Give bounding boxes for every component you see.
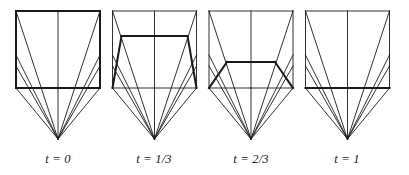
skirt-left: [209, 88, 251, 139]
fan-line-right-2: [348, 66, 390, 139]
bold-trapezoid-left: [209, 62, 227, 88]
bold-trapezoid-right: [188, 36, 197, 88]
fan-line-right-0: [155, 11, 197, 139]
bold-trapezoid-right: [275, 62, 293, 88]
skirt-right: [155, 88, 197, 139]
fan-line-right-2: [58, 66, 100, 139]
skirt-left: [16, 88, 58, 139]
fan-line-left-1: [306, 55, 348, 139]
skirt-right: [58, 88, 100, 139]
panel-label-t1: t = 1: [289, 152, 405, 167]
fan-line-left-0: [16, 11, 58, 139]
fan-line-right-2: [155, 66, 197, 139]
fan-line-left-0: [306, 11, 348, 139]
fan-line-left-0: [209, 11, 251, 139]
skirt-right: [348, 88, 390, 139]
skirt-right: [251, 88, 293, 139]
bold-trapezoid-left: [113, 36, 122, 88]
fan-line-left-0: [113, 11, 155, 139]
skirt-left: [113, 88, 155, 139]
fan-line-right-1: [251, 55, 293, 139]
fan-line-left-2: [16, 66, 58, 139]
fan-line-left-1: [113, 55, 155, 139]
fan-line-left-2: [113, 66, 155, 139]
fan-line-right-1: [155, 55, 197, 139]
fan-line-right-0: [58, 11, 100, 139]
fan-line-right-1: [348, 55, 390, 139]
figure-container: t = 0 t = 1/3 t = 2/3 t = 1: [0, 0, 409, 175]
fan-line-right-2: [251, 66, 293, 139]
fan-line-left-2: [209, 66, 251, 139]
fan-line-right-0: [348, 11, 390, 139]
fan-line-left-1: [209, 55, 251, 139]
fan-line-left-1: [16, 55, 58, 139]
morphing-net-diagram: [0, 0, 409, 175]
fan-line-right-0: [251, 11, 293, 139]
fan-line-right-1: [58, 55, 100, 139]
fan-line-left-2: [306, 66, 348, 139]
skirt-left: [306, 88, 348, 139]
